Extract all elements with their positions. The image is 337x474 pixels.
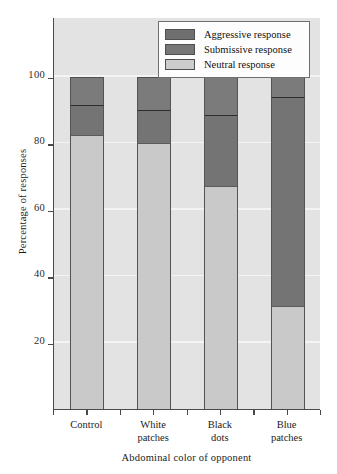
x-axis-title: Abdominal color of opponent <box>53 452 320 463</box>
legend-label: Submissive response <box>204 44 292 55</box>
x-tick-mark <box>120 410 121 415</box>
bar-control[interactable] <box>70 77 104 409</box>
segment-aggressive[interactable] <box>204 77 238 115</box>
segment-submissive[interactable] <box>70 105 104 135</box>
chart-legend: Aggressive responseSubmissive responseNe… <box>158 21 310 78</box>
y-tick-mark <box>48 78 53 79</box>
y-tick-label: 80 <box>34 136 45 147</box>
y-axis: 20406080100 Percentage of responses <box>0 0 53 428</box>
segment-submissive[interactable] <box>271 97 305 306</box>
x-category-label-black-dots: Blackdots <box>187 419 254 444</box>
y-tick-label: 60 <box>34 203 45 214</box>
segment-neutral[interactable] <box>137 143 171 409</box>
legend-swatch-submissive <box>165 44 195 55</box>
legend-item-submissive[interactable]: Submissive response <box>165 42 302 57</box>
x-tick-mark <box>287 410 288 415</box>
segment-aggressive[interactable] <box>271 77 305 97</box>
legend-label: Neutral response <box>204 59 275 70</box>
y-axis-title: Percentage of responses <box>17 92 28 312</box>
legend-item-aggressive[interactable]: Aggressive response <box>165 27 302 42</box>
x-axis: ControlWhitepatchesBlackdotsBluepatches <box>53 410 320 474</box>
bar-black-dots[interactable] <box>204 77 238 409</box>
y-tick-label: 40 <box>34 269 45 280</box>
x-tick-mark <box>153 410 154 415</box>
segment-neutral[interactable] <box>204 186 238 409</box>
segment-submissive[interactable] <box>204 115 238 186</box>
y-tick-mark <box>48 144 53 145</box>
legend-swatch-neutral <box>165 59 195 70</box>
y-tick-label: 20 <box>34 336 45 347</box>
y-tick-mark <box>48 277 53 278</box>
x-tick-mark <box>220 410 221 415</box>
y-tick-label: 100 <box>28 70 45 81</box>
segment-aggressive[interactable] <box>137 77 171 110</box>
legend-swatch-aggressive <box>165 29 195 40</box>
x-category-label-control: Control <box>53 419 120 432</box>
segment-neutral[interactable] <box>271 306 305 409</box>
bar-blue-patches[interactable] <box>271 77 305 409</box>
x-tick-mark <box>53 410 54 415</box>
y-tick-mark <box>48 211 53 212</box>
bar-white-patches[interactable] <box>137 77 171 409</box>
y-tick-20: 20 <box>0 344 53 345</box>
legend-label: Aggressive response <box>204 29 291 40</box>
figure-container: 20406080100 Percentage of responses Cont… <box>0 0 337 474</box>
x-tick-mark <box>253 410 254 415</box>
x-tick-mark <box>320 410 321 415</box>
x-category-label-white-patches: Whitepatches <box>120 419 187 444</box>
segment-aggressive[interactable] <box>70 77 104 105</box>
legend-item-neutral[interactable]: Neutral response <box>165 57 302 72</box>
x-tick-mark <box>187 410 188 415</box>
x-tick-mark <box>86 410 87 415</box>
segment-submissive[interactable] <box>137 110 171 143</box>
x-category-label-blue-patches: Bluepatches <box>253 419 320 444</box>
y-tick-mark <box>48 344 53 345</box>
segment-neutral[interactable] <box>70 135 104 409</box>
y-tick-100: 100 <box>0 78 53 79</box>
